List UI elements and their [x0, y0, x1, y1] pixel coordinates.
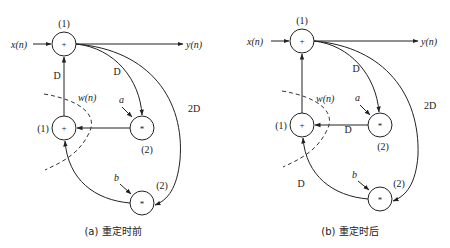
coef-b-label: b: [114, 172, 119, 183]
top-adder-time: (1): [58, 18, 70, 30]
mid-adder-time: (1): [37, 123, 49, 135]
coef-a-edge: [122, 107, 132, 117]
diagram-a: x(n) y(n) + (1) + (1) * (2) a * (2) b D …: [10, 18, 203, 237]
coef-b-edge: [120, 184, 131, 194]
top-adder-symbol: +: [299, 36, 304, 46]
mid-adder-time: (1): [275, 120, 287, 132]
mult-b-time: (2): [156, 180, 168, 192]
output-label: y(n): [420, 36, 438, 48]
delay-top-to-a: D: [352, 63, 359, 74]
top-to-b-edge: [314, 41, 418, 201]
mid-adder-symbol: +: [61, 123, 66, 133]
coef-b-edge: [358, 181, 369, 190]
delay-b-to-mid: D: [297, 178, 304, 189]
coef-a-label: a: [119, 94, 124, 105]
caption-b: (b) 重定时后: [321, 225, 378, 237]
cut-label: w(n): [78, 92, 97, 104]
b-to-mid-edge: [303, 138, 368, 199]
output-label: y(n): [185, 39, 203, 51]
b-to-mid-edge: [65, 141, 130, 203]
coef-a-label: a: [355, 92, 360, 103]
mult-a-symbol: *: [378, 121, 383, 131]
mult-a-time: (2): [141, 144, 153, 156]
mult-b-time: (2): [393, 178, 405, 190]
delay-top-to-b: 2D: [424, 100, 436, 111]
coef-a-edge: [360, 105, 370, 115]
input-label: x(n): [10, 39, 28, 51]
top-to-a-edge: [76, 44, 142, 115]
diagram-b: x(n) y(n) + (1) + (1) * (2) a * (2) b D …: [246, 15, 438, 237]
mult-b-symbol: *: [378, 195, 383, 205]
mult-a-time: (2): [377, 141, 389, 153]
mult-a-symbol: *: [140, 124, 145, 134]
coef-b-label: b: [352, 169, 357, 180]
delay-mid-to-top: D: [53, 70, 60, 81]
mid-adder-symbol: +: [299, 120, 304, 130]
top-adder-time: (1): [296, 15, 308, 27]
mult-b-symbol: *: [140, 199, 145, 209]
delay-top-to-a: D: [113, 66, 120, 77]
input-label: x(n): [246, 36, 264, 48]
delay-a-to-mid: D: [344, 124, 351, 135]
top-adder-symbol: +: [61, 39, 66, 49]
caption-a: (a) 重定时前: [84, 225, 141, 237]
retiming-diagrams: x(n) y(n) + (1) + (1) * (2) a * (2) b D …: [0, 0, 450, 248]
delay-top-to-b: 2D: [188, 103, 200, 114]
cut-label: w(n): [316, 93, 335, 105]
